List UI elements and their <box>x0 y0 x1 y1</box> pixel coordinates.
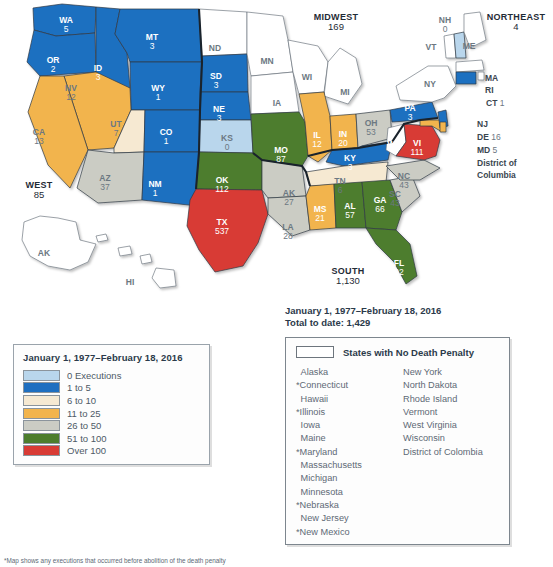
state-shape-MA <box>456 60 484 72</box>
legend-swatch <box>23 420 60 431</box>
region-value: 169 <box>301 22 371 33</box>
footnote: *Map shows any executions that occurred … <box>4 557 226 564</box>
state-shape-NE <box>200 92 251 120</box>
legend-row-6[interactable]: Over 100 <box>23 445 200 458</box>
state-shape-TX <box>187 189 268 272</box>
no-death-penalty-item-left-12: *New Mexico <box>296 526 399 539</box>
no-death-penalty-item-left-9: Minnesota <box>296 486 399 499</box>
no-death-penalty-item-left-5: Maine <box>296 432 399 445</box>
state-shape-ND <box>199 9 247 56</box>
no-death-penalty-item-right-2: Rhode Island <box>399 393 502 406</box>
no-death-penalty-box-header: States with No Death Penalty <box>296 346 501 358</box>
no-death-penalty-box: States with No Death Penalty Alaska*Conn… <box>285 337 510 545</box>
legend-row-4[interactable]: 26 to 50 <box>23 419 200 432</box>
no-death-penalty-item-left-8: Michigan <box>296 472 399 485</box>
no-death-penalty-item-left-0: Alaska <box>296 366 399 379</box>
legend-row-0[interactable]: 0 Executions <box>23 369 200 382</box>
legend-label: 1 to 5 <box>67 382 91 393</box>
no-death-penalty-columns: Alaska*ConnecticutHawaii*IllinoisIowaMai… <box>294 366 501 539</box>
state-shape-NM <box>142 152 199 206</box>
state-shape-CO <box>144 110 200 152</box>
state-shape-IA <box>251 72 299 114</box>
no-death-penalty-item-right-0: New York <box>399 366 502 379</box>
state-shape-CT <box>456 72 476 84</box>
no-death-penalty-item-left-11: New Jersey <box>296 512 399 525</box>
region-value: 85 <box>4 190 74 201</box>
legend-swatch <box>23 445 60 456</box>
legend-label: 26 to 50 <box>67 420 101 431</box>
region-value: 4 <box>481 22 551 33</box>
state-shape-OK <box>196 152 262 190</box>
no-death-penalty-item-right-1: North Dakota <box>399 379 502 392</box>
state-shape-OR <box>27 30 96 76</box>
state-shape-HI-3 <box>140 254 152 264</box>
legend-row-2[interactable]: 6 to 10 <box>23 394 200 407</box>
no-death-penalty-swatch <box>296 346 334 358</box>
legend-label: 11 to 25 <box>67 408 101 419</box>
no-death-penalty-item-right-6: District of Colombia <box>399 446 502 459</box>
region-total-south: SOUTH1,130 <box>313 266 383 287</box>
state-shape-AL <box>334 182 366 228</box>
no-death-penalty-header-text: States with No Death Penalty <box>343 347 474 358</box>
no-death-penalty-heading: January 1, 1977–February 18, 2016 Total … <box>285 305 441 329</box>
legend-swatch <box>23 382 60 393</box>
us-map-graphic <box>0 0 553 300</box>
execution-map-page: WA5OR2ID3MT3WY1NV12CA13UT7AZ37CO1NM1NDSD… <box>0 0 553 567</box>
state-shape-DE <box>440 122 446 132</box>
state-shape-AK <box>22 216 96 270</box>
legend-swatch <box>23 433 60 444</box>
no-death-penalty-item-left-2: Hawaii <box>296 393 399 406</box>
legend-swatch <box>23 395 60 406</box>
ndp-date-range: January 1, 1977–February 18, 2016 <box>285 305 441 317</box>
legend-label: 51 to 100 <box>67 433 107 444</box>
region-total-west: WEST85 <box>4 180 74 201</box>
no-death-penalty-item-left-6: *Maryland <box>296 446 399 459</box>
state-shape-MS <box>306 184 336 230</box>
legend-label: 6 to 10 <box>67 395 96 406</box>
no-death-penalty-item-right-3: Vermont <box>399 406 502 419</box>
state-shape-IN <box>330 114 358 150</box>
state-shape-WA <box>33 4 96 36</box>
no-death-penalty-column-left: Alaska*ConnecticutHawaii*IllinoisIowaMai… <box>296 366 399 539</box>
legend-label: 0 Executions <box>67 370 121 381</box>
region-total-midwest: MIDWEST169 <box>301 12 371 33</box>
legend-title: January 1, 1977–February 18, 2016 <box>23 352 200 363</box>
legend-row-3[interactable]: 11 to 25 <box>23 407 200 420</box>
no-death-penalty-item-left-3: *Illinois <box>296 406 399 419</box>
no-death-penalty-item-left-10: *Nebraska <box>296 499 399 512</box>
state-shape-NC <box>386 160 440 180</box>
region-total-northeast: NORTHEAST4 <box>481 12 551 33</box>
no-death-penalty-column-right: New YorkNorth DakotaRhode IslandVermontW… <box>399 366 502 539</box>
state-shape-HI-2 <box>118 246 132 256</box>
no-death-penalty-item-right-5: Wisconsin <box>399 432 502 445</box>
state-shape-WY <box>130 62 202 110</box>
no-death-penalty-item-left-1: *Connecticut <box>296 379 399 392</box>
legend-row-5[interactable]: 51 to 100 <box>23 432 200 445</box>
region-value: 1,130 <box>313 276 383 287</box>
state-shape-SD <box>200 54 248 92</box>
state-shape-NH <box>454 32 466 58</box>
legend-swatch <box>23 408 60 419</box>
state-shape-MI <box>324 48 362 104</box>
legend-row-1[interactable]: 1 to 5 <box>23 382 200 395</box>
state-shape-LA <box>268 196 310 236</box>
state-shape-MN <box>247 12 293 76</box>
state-shape-AZ <box>77 150 144 203</box>
no-death-penalty-item-left-7: Massachusetts <box>296 459 399 472</box>
no-death-penalty-item-right-4: West Virginia <box>399 419 502 432</box>
legend-label: Over 100 <box>67 445 106 456</box>
state-shape-RI <box>478 72 484 80</box>
legend-rows: 0 Executions1 to 56 to 1011 to 2526 to 5… <box>23 369 200 457</box>
legend-box: January 1, 1977–February 18, 2016 0 Exec… <box>13 344 210 465</box>
state-shape-HI-4 <box>152 268 176 288</box>
state-shape-KS <box>199 120 253 153</box>
state-shape-MT <box>115 9 202 62</box>
state-shape-HI-1 <box>96 234 108 242</box>
ndp-total-line: Total to date: 1,429 <box>285 317 441 329</box>
no-death-penalty-item-left-4: Iowa <box>296 419 399 432</box>
legend-swatch <box>23 370 60 381</box>
state-shape-NY <box>396 66 456 102</box>
